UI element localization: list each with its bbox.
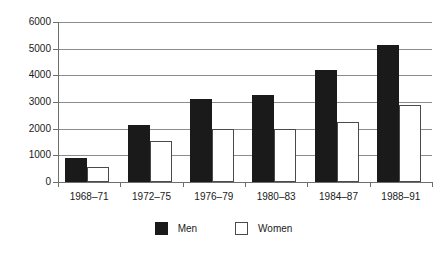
- chart-legend: MenWomen: [0, 222, 447, 235]
- y-tick-mark-4000: [53, 75, 58, 76]
- x-tick-label-1988–91: 1988–91: [370, 191, 432, 203]
- y-tick-mark-3000: [53, 102, 58, 103]
- bar-women-1980–83: [274, 129, 296, 182]
- y-tick-mark-0: [53, 182, 58, 183]
- bar-men-1980–83: [252, 95, 274, 182]
- bar-men-1988–91: [377, 45, 399, 182]
- bar-women-1968–71: [87, 167, 109, 182]
- x-tick-label-1980–83: 1980–83: [245, 191, 307, 203]
- x-tick-label-1976–79: 1976–79: [183, 191, 245, 203]
- bar-men-1984–87: [315, 70, 337, 182]
- y-tick-label-6000: 6000: [3, 17, 51, 27]
- legend-label-women: Women: [258, 223, 292, 235]
- y-tick-mark-6000: [53, 22, 58, 23]
- gridline-6000: [58, 22, 432, 23]
- plot-area: [58, 22, 432, 182]
- x-tick-mark-2: [245, 182, 246, 187]
- bar-women-1988–91: [399, 105, 421, 182]
- y-tick-mark-1000: [53, 155, 58, 156]
- legend-swatch-filled-black-square: [155, 222, 168, 235]
- x-tick-mark-origin: [58, 182, 59, 187]
- x-tick-label-1984–87: 1984–87: [307, 191, 369, 203]
- x-tick-mark-0: [120, 182, 121, 187]
- y-axis-line: [58, 22, 59, 183]
- bar-women-1984–87: [337, 122, 359, 182]
- y-axis-tick-labels: 0100020003000400050006000: [0, 0, 51, 257]
- bar-chart: 0100020003000400050006000 1968–711972–75…: [0, 0, 447, 257]
- legend-item-women[interactable]: Women: [235, 222, 292, 235]
- y-tick-label-5000: 5000: [3, 44, 51, 54]
- x-tick-label-1968–71: 1968–71: [58, 191, 120, 203]
- x-tick-mark-1: [183, 182, 184, 187]
- legend-label-men: Men: [178, 223, 197, 235]
- legend-item-men[interactable]: Men: [155, 222, 197, 235]
- y-tick-label-3000: 3000: [3, 97, 51, 107]
- y-tick-label-0: 0: [3, 177, 51, 187]
- y-tick-mark-5000: [53, 49, 58, 50]
- x-tick-mark-3: [307, 182, 308, 187]
- y-tick-mark-2000: [53, 129, 58, 130]
- y-tick-label-1000: 1000: [3, 150, 51, 160]
- x-tick-label-1972–75: 1972–75: [120, 191, 182, 203]
- bar-women-1972–75: [150, 141, 172, 182]
- bar-men-1976–79: [190, 99, 212, 182]
- legend-swatch-outlined-white-square: [235, 222, 248, 235]
- x-tick-mark-4: [370, 182, 371, 187]
- x-tick-mark-5: [432, 182, 433, 187]
- bar-men-1968–71: [65, 158, 87, 182]
- y-tick-label-2000: 2000: [3, 124, 51, 134]
- y-tick-label-4000: 4000: [3, 70, 51, 80]
- bar-men-1972–75: [128, 125, 150, 182]
- bar-women-1976–79: [212, 129, 234, 182]
